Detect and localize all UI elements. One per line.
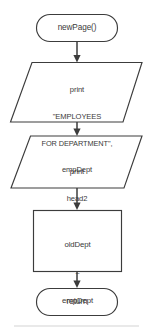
arrowhead-icon (73, 281, 80, 289)
process-assign-shape[interactable] (34, 211, 122, 272)
arrowhead-icon (73, 129, 80, 137)
io-print-header-shape[interactable] (11, 63, 143, 123)
scan-artifact (14, 325, 139, 327)
arrowhead-icon (73, 203, 80, 211)
flowchart-diagram (0, 0, 153, 332)
terminal-return-shape[interactable] (37, 289, 118, 316)
io-print-head2-shape[interactable] (11, 136, 142, 188)
arrowhead-icon (73, 55, 80, 63)
terminal-start-shape[interactable] (37, 15, 118, 42)
